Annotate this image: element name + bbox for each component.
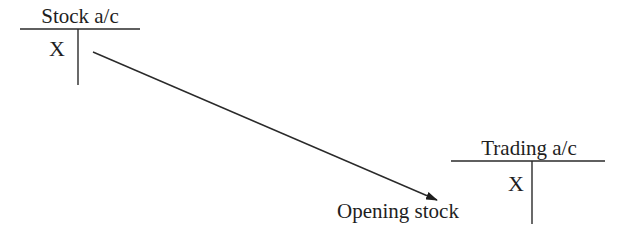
transfer-arrow xyxy=(93,52,437,200)
trading-account-title: Trading a/c xyxy=(481,136,576,160)
trading-account: Trading a/c X xyxy=(451,136,605,224)
stock-account: Stock a/c X xyxy=(20,4,140,85)
arrow-label: Opening stock xyxy=(337,199,459,223)
stock-account-debit-entry: X xyxy=(49,36,65,61)
trading-account-debit-entry: X xyxy=(508,171,524,196)
stock-transfer-diagram: Stock a/c X Trading a/c X Opening stock xyxy=(0,0,633,247)
stock-account-title: Stock a/c xyxy=(41,4,119,28)
